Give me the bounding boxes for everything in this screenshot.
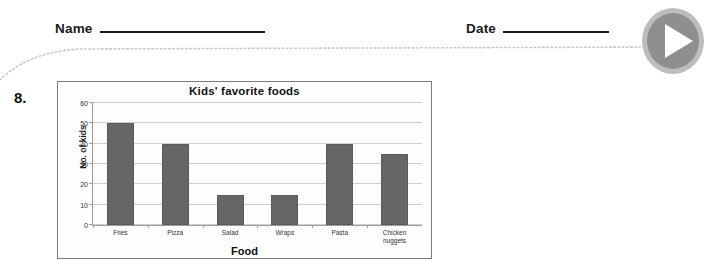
name-field-group: Name — [55, 18, 265, 36]
x-axis-tick — [257, 225, 258, 228]
bar — [381, 154, 408, 225]
bar-chart: Kids' favorite foods No. of kids 0102030… — [57, 81, 432, 259]
date-input[interactable] — [503, 18, 609, 33]
y-axis-tick-label: 60 — [80, 100, 88, 107]
x-axis-tick-label: Wraps — [262, 229, 308, 237]
x-axis-tick — [203, 225, 204, 228]
x-axis-tick-label: Pizza — [152, 229, 198, 237]
x-axis-tick — [367, 225, 368, 228]
bar-group: Salad — [203, 103, 258, 225]
y-axis-tick-label: 0 — [84, 222, 88, 229]
x-axis-tick-label: Fries — [97, 229, 143, 237]
date-field-group: Date — [466, 18, 609, 36]
bar-group: Pizza — [148, 103, 203, 225]
question-number: 8. — [14, 89, 27, 106]
bar-group: Chicken nuggets — [367, 103, 422, 225]
name-label: Name — [55, 21, 93, 36]
y-axis-tick-label: 20 — [80, 181, 88, 188]
bar — [217, 195, 244, 226]
y-axis-tick-label: 30 — [80, 161, 88, 168]
x-axis-title: Food — [58, 245, 431, 257]
date-label: Date — [466, 21, 496, 36]
worksheet-header: Name Date — [0, 0, 728, 56]
chart-title: Kids' favorite foods — [58, 85, 431, 97]
x-axis-tick-label: Chicken nuggets — [372, 229, 418, 244]
bar — [162, 144, 189, 225]
plot-area: 0102030405060 FriesPizzaSaladWrapsPastaC… — [92, 103, 422, 226]
bar-group: Pasta — [312, 103, 367, 225]
x-axis-tick — [93, 225, 94, 228]
bars-layer: FriesPizzaSaladWrapsPastaChicken nuggets — [93, 103, 422, 225]
bar — [107, 123, 134, 225]
bar-group: Wraps — [257, 103, 312, 225]
y-axis-tick-label: 50 — [80, 120, 88, 127]
x-axis-tick — [312, 225, 313, 228]
bar — [271, 195, 298, 226]
bar-group: Fries — [93, 103, 148, 225]
x-axis-tick — [148, 225, 149, 228]
bar — [326, 144, 353, 225]
y-axis-tick-label: 40 — [80, 140, 88, 147]
x-axis-tick-label: Pasta — [317, 229, 363, 237]
play-button[interactable] — [639, 7, 707, 75]
name-input[interactable] — [100, 18, 265, 33]
y-axis-tick-label: 10 — [80, 201, 88, 208]
x-axis-tick-label: Salad — [207, 229, 253, 237]
